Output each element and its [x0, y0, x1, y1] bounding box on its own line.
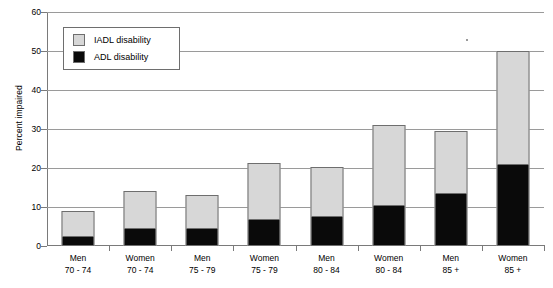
category-label-line1: Women [109, 252, 171, 264]
category-label-line2: 80 - 84 [358, 264, 420, 276]
stacked-bar[interactable] [496, 51, 529, 246]
legend-swatch-iadl-icon [73, 34, 85, 46]
bar-segment-adl[interactable] [435, 194, 466, 245]
y-axis-tick-label: 60 [15, 8, 41, 17]
stacked-bar[interactable] [372, 125, 405, 246]
bar-segment-divider [187, 228, 218, 229]
y-axis-tick-label: 40 [15, 86, 41, 95]
bar-segment-divider [373, 205, 404, 206]
category-label-line2: 75 - 79 [233, 264, 295, 276]
stacked-bar[interactable] [124, 191, 157, 246]
legend-item-adl: ADL disability [73, 50, 148, 64]
bar-segment-divider [435, 193, 466, 194]
legend-swatch-adl-icon [73, 51, 85, 63]
bar-segment-adl[interactable] [373, 206, 404, 245]
bar-slot [358, 12, 420, 246]
bar-slot [233, 12, 295, 246]
x-axis-category-label: Women75 - 79 [233, 252, 295, 276]
x-axis-category-label: Men70 - 74 [47, 252, 109, 276]
stacked-bar[interactable] [62, 211, 95, 246]
stacked-bar[interactable] [186, 195, 219, 246]
legend-label-adl: ADL disability [94, 52, 148, 62]
y-axis-tick-label: 50 [15, 47, 41, 56]
x-axis-category-label: Women85 + [482, 252, 544, 276]
bar-segment-adl[interactable] [187, 229, 218, 245]
y-axis-tick-label: 0 [15, 242, 41, 251]
chart-legend: IADL disability ADL disability [63, 27, 180, 70]
stacked-bar[interactable] [248, 163, 281, 246]
y-axis-tick-label: 20 [15, 164, 41, 173]
bar-slot [171, 12, 233, 246]
bar-segment-adl[interactable] [311, 217, 342, 245]
x-axis-category-label: Men80 - 84 [296, 252, 358, 276]
x-axis-category-label: Men85 + [420, 252, 482, 276]
bar-slot [482, 12, 544, 246]
bar-segment-adl[interactable] [497, 165, 528, 245]
category-label-line1: Women [482, 252, 544, 264]
category-label-line2: 85 + [420, 264, 482, 276]
bar-segment-adl[interactable] [249, 220, 280, 245]
category-label-line1: Men [47, 252, 109, 264]
x-axis-category-labels: Men70 - 74Women70 - 74Men75 - 79Women75 … [47, 252, 544, 286]
bar-segment-divider [63, 236, 94, 237]
scan-speck [466, 39, 468, 41]
category-label-line1: Men [171, 252, 233, 264]
bar-segment-adl[interactable] [63, 237, 94, 245]
y-axis-tick [41, 246, 47, 247]
category-label-line2: 70 - 74 [47, 264, 109, 276]
stacked-bar[interactable] [434, 131, 467, 246]
x-axis-tick [544, 245, 545, 251]
bar-segment-adl[interactable] [125, 229, 156, 245]
bar-segment-divider [125, 228, 156, 229]
y-axis-title: Percent impaired [14, 58, 24, 178]
y-axis-tick-label: 10 [15, 203, 41, 212]
category-label-line2: 80 - 84 [296, 264, 358, 276]
bar-slot [296, 12, 358, 246]
x-axis-category-label: Women80 - 84 [358, 252, 420, 276]
category-label-line1: Women [233, 252, 295, 264]
x-axis-category-label: Men75 - 79 [171, 252, 233, 276]
stacked-bar-chart: Percent impaired 0102030405060 Men70 - 7… [0, 0, 553, 288]
category-label-line2: 85 + [482, 264, 544, 276]
bar-segment-divider [311, 216, 342, 217]
y-axis-tick-label: 30 [15, 125, 41, 134]
category-label-line1: Men [420, 252, 482, 264]
stacked-bar[interactable] [310, 167, 343, 246]
bar-segment-divider [497, 164, 528, 165]
x-axis-category-label: Women70 - 74 [109, 252, 171, 276]
legend-label-iadl: IADL disability [94, 35, 151, 45]
category-label-line1: Men [296, 252, 358, 264]
category-label-line1: Women [358, 252, 420, 264]
category-label-line2: 75 - 79 [171, 264, 233, 276]
category-label-line2: 70 - 74 [109, 264, 171, 276]
legend-item-iadl: IADL disability [73, 33, 151, 47]
bar-segment-divider [249, 219, 280, 220]
bar-slot [420, 12, 482, 246]
